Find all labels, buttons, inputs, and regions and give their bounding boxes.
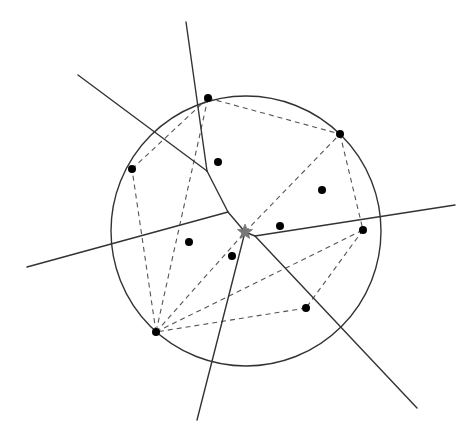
- solid-region-boundaries: [27, 22, 455, 420]
- solid-segment: [207, 171, 228, 212]
- hull-point: [204, 94, 212, 102]
- interior-point: [228, 252, 236, 260]
- dashed-edge: [208, 98, 340, 134]
- solid-segment: [255, 205, 455, 236]
- hull-point: [359, 226, 367, 234]
- dashed-edge: [156, 308, 306, 332]
- hull-point: [302, 304, 310, 312]
- dashed-triangulation-edges: [132, 98, 363, 332]
- hull-point: [152, 328, 160, 336]
- solid-segment: [27, 212, 228, 267]
- hull-point: [336, 130, 344, 138]
- dashed-edge: [132, 98, 208, 169]
- solid-segment: [186, 22, 207, 171]
- dashed-edge: [340, 134, 363, 230]
- dashed-edge: [245, 134, 340, 232]
- interior-point: [185, 238, 193, 246]
- hull-point: [128, 165, 136, 173]
- interior-point: [276, 222, 284, 230]
- interior-point: [214, 158, 222, 166]
- interior-point: [318, 186, 326, 194]
- solid-segment: [78, 75, 207, 171]
- dashed-edge: [156, 98, 208, 332]
- solid-segment: [197, 232, 245, 420]
- data-points: [128, 94, 367, 336]
- voronoi-hull-diagram: [0, 0, 469, 439]
- solid-segment: [255, 236, 417, 408]
- dashed-edge: [306, 230, 363, 308]
